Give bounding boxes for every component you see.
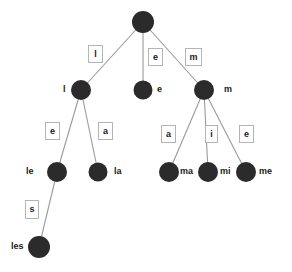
edge-label-root-e: e: [148, 48, 163, 66]
trie-diagram: lemeasaie lemlelamamimeles: [0, 0, 292, 272]
edge-label-l-le: e: [45, 122, 60, 140]
tree-edge: [39, 172, 57, 247]
tree-node-root[interactable]: [132, 11, 154, 33]
edge-label-l-la: a: [98, 122, 113, 140]
node-label-ma: ma: [180, 167, 193, 176]
node-label-m: m: [224, 85, 232, 94]
tree-node-mi[interactable]: [198, 162, 218, 182]
tree-node-m[interactable]: [194, 80, 214, 100]
node-label-mi: mi: [220, 167, 231, 176]
edge-label-m-mi: i: [205, 125, 218, 143]
node-label-le: le: [26, 167, 34, 176]
node-label-me: me: [259, 167, 272, 176]
tree-node-la[interactable]: [89, 163, 108, 182]
edge-label-m-me: e: [239, 125, 254, 143]
node-label-l: l: [63, 85, 66, 94]
node-label-e: e: [157, 85, 162, 94]
tree-node-le[interactable]: [47, 162, 67, 182]
tree-node-e[interactable]: [134, 81, 153, 100]
node-label-la: la: [114, 167, 122, 176]
tree-edge: [81, 90, 98, 172]
tree-node-l[interactable]: [71, 80, 91, 100]
tree-node-me[interactable]: [236, 162, 256, 182]
edge-label-m-ma: a: [161, 125, 176, 143]
nodes-group: [28, 11, 256, 258]
edge-label-root-m: m: [185, 48, 202, 66]
tree-edge: [57, 90, 81, 172]
edge-label-le-les: s: [25, 200, 39, 219]
edge-label-root-l: l: [88, 45, 103, 63]
node-label-les: les: [11, 242, 24, 251]
tree-node-ma[interactable]: [159, 162, 179, 182]
tree-node-les[interactable]: [28, 236, 50, 258]
